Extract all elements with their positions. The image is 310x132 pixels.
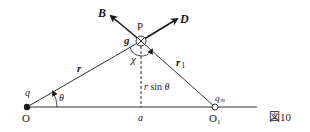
r1-label: r1 bbox=[176, 56, 185, 70]
vector-d-arrow bbox=[141, 19, 177, 41]
qm-sub: m bbox=[221, 97, 226, 103]
r-sin-theta-label: r sin θ bbox=[144, 81, 170, 92]
charge-q-dot bbox=[24, 104, 30, 110]
vector-d-label: D bbox=[179, 12, 189, 26]
vector-b-label: B bbox=[97, 6, 106, 20]
o1-sub: 1 bbox=[217, 118, 221, 126]
r-segment bbox=[27, 41, 141, 107]
current-into-page-icon bbox=[136, 36, 146, 46]
o1-main: O bbox=[209, 112, 217, 124]
qm-main: q bbox=[215, 93, 220, 103]
point-o-label: O bbox=[22, 112, 30, 124]
figure-caption: 図10 bbox=[269, 111, 292, 123]
point-o1-label: O1 bbox=[209, 112, 221, 126]
figure-10-diagram: B D P g χ r r1 r sin θ θ q qm O a O1 図10 bbox=[0, 0, 310, 132]
rsin-fn: sin bbox=[148, 81, 165, 92]
r1-main: r bbox=[176, 56, 181, 68]
theta-label: θ bbox=[59, 92, 64, 103]
point-p-label: P bbox=[137, 20, 143, 32]
charge-qm-dot bbox=[212, 104, 218, 110]
angle-theta-arc bbox=[53, 92, 57, 107]
r1-sub: 1 bbox=[181, 61, 185, 70]
r-label: r bbox=[77, 62, 82, 74]
charge-qm-label: qm bbox=[215, 93, 226, 103]
r1-segment bbox=[141, 41, 215, 107]
rsin-theta: θ bbox=[165, 81, 170, 92]
foot-a-label: a bbox=[138, 112, 143, 123]
g-label: g bbox=[123, 34, 130, 46]
charge-q-label: q bbox=[25, 87, 30, 98]
